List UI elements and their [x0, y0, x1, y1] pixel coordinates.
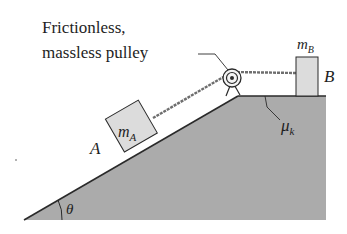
rope-b: [233, 72, 296, 73]
block-b-label: B: [324, 67, 335, 86]
angle-label: θ: [66, 201, 74, 217]
block-b: [296, 57, 318, 96]
stray-dot: [15, 159, 17, 161]
mass-b-label: mB: [297, 36, 314, 55]
block-a-label: A: [89, 139, 101, 158]
incline-pulley-diagram: Frictionless, massless pulley mA A mB B …: [0, 0, 347, 234]
block-a: [105, 100, 157, 152]
callout-line-1: Frictionless,: [42, 18, 126, 37]
pulley-callout-line: [198, 54, 228, 70]
pulley: [223, 69, 241, 96]
callout-line-2: massless pulley: [42, 43, 149, 62]
